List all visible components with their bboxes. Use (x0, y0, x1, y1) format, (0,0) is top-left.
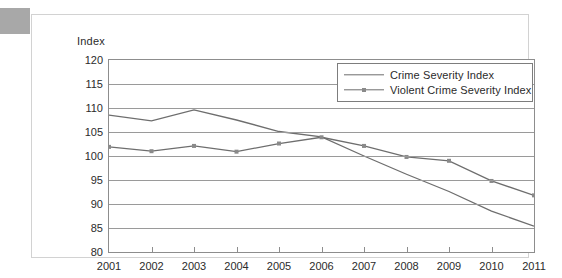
legend-item[interactable]: Crime Severity Index (338, 67, 532, 82)
x-axis-tick-mark (194, 247, 195, 252)
x-axis-tick-label: 2010 (479, 260, 503, 272)
y-axis-caption: Index (77, 35, 105, 47)
y-axis-tick-label: 120 (85, 54, 103, 66)
x-axis-tick-label: 2003 (182, 260, 206, 272)
x-axis-tick-label: 2006 (309, 260, 333, 272)
gridline (109, 204, 534, 205)
chart-figure-frame: Index 12011511010510095908580 2001200220… (31, 14, 529, 258)
y-axis-tick-label: 110 (85, 102, 103, 114)
line-marker-swatch-icon (344, 84, 384, 96)
x-axis-tick-mark (322, 247, 323, 252)
series-data-point-marker (192, 144, 196, 148)
series-data-point-marker (277, 142, 281, 146)
legend-item-label: Violent Crime Severity Index (390, 84, 531, 96)
gridline (109, 228, 534, 229)
x-axis-tick-mark (534, 247, 535, 252)
y-axis-tick-label: 105 (85, 126, 103, 138)
series-data-point-marker (532, 193, 534, 197)
series-data-point-marker (235, 150, 239, 154)
series-line (109, 110, 534, 226)
gridline (109, 156, 534, 157)
series-data-point-marker (320, 135, 324, 139)
x-axis-tick-label: 2008 (394, 260, 418, 272)
series-data-point-marker (447, 159, 451, 163)
series-data-point-marker (109, 145, 111, 149)
x-axis-tick-mark (407, 247, 408, 252)
line-swatch-icon (344, 69, 384, 81)
y-axis-tick-label: 95 (91, 174, 103, 186)
x-axis-tick-label: 2002 (139, 260, 163, 272)
x-axis-tick-label: 2007 (352, 260, 376, 272)
gridline (109, 180, 534, 181)
corner-accent-block (0, 8, 30, 34)
y-axis-tick-label: 100 (85, 150, 103, 162)
x-axis-tick-label: 2001 (97, 260, 121, 272)
legend-item-label: Crime Severity Index (390, 69, 494, 81)
x-axis-tick-mark (449, 247, 450, 252)
y-axis-tick-label: 80 (91, 246, 103, 258)
x-axis-tick-label: 2005 (267, 260, 291, 272)
x-axis-tick-label: 2011 (522, 260, 546, 272)
x-axis-tick-label: 2004 (224, 260, 248, 272)
series-line (109, 137, 534, 195)
x-axis-tick-mark (279, 247, 280, 252)
gridline (109, 132, 534, 133)
x-axis-tick-labels: 2001200220032004200520062007200820092010… (108, 257, 535, 273)
x-axis-tick-mark (492, 247, 493, 252)
x-axis-tick-label: 2009 (437, 260, 461, 272)
y-axis-tick-label: 115 (85, 78, 103, 90)
y-axis-tick-label: 90 (91, 198, 103, 210)
series-data-point-marker (362, 144, 366, 148)
x-axis-tick-mark (237, 247, 238, 252)
x-axis-tick-mark (364, 247, 365, 252)
gridline (109, 108, 534, 109)
series-data-point-marker (150, 149, 154, 153)
y-axis-tick-label: 85 (91, 222, 103, 234)
chart-legend: Crime Severity IndexViolent Crime Severi… (337, 63, 533, 102)
legend-item[interactable]: Violent Crime Severity Index (338, 82, 532, 97)
y-axis-tick-labels: 12011511010510095908580 (72, 59, 103, 253)
x-axis-tick-mark (152, 247, 153, 252)
